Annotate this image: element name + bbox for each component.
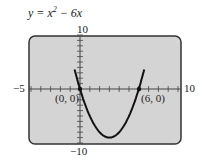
x-max-label: 10 [184,82,195,94]
y-max-label: 10 [77,23,88,35]
point-label-origin: (0, 0) [55,92,79,104]
x-min-label: −5 [13,82,25,94]
point-label-six: (6, 0) [141,92,165,104]
y-min-label: −10 [70,145,87,157]
point-six [137,87,141,91]
point-origin [78,87,82,91]
graph-screen [0,0,202,161]
